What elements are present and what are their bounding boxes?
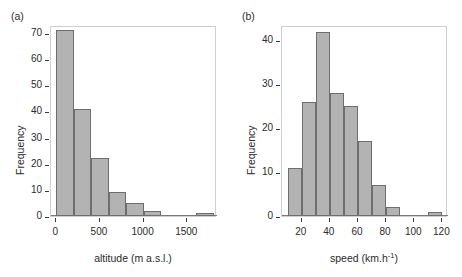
x-axis-tick [99,218,100,222]
y-axis-tick-label: 10 [4,184,42,195]
y-axis-tick-label: 70 [4,27,42,38]
y-axis-tick [45,139,49,140]
x-axis-tick-label: 1000 [123,226,163,237]
y-axis-tick [45,112,49,113]
y-axis-tick [45,86,49,87]
histogram-bar [358,141,372,216]
y-axis-tick-label: 40 [4,105,42,116]
x-axis-tick [413,218,414,222]
y-axis-tick-label: 30 [235,78,273,89]
panel-b: (b) Frequency 01020304020406080100120 sp… [231,0,462,277]
histogram-bar [91,158,108,216]
y-axis-tick-label: 20 [4,158,42,169]
panel-b-tag: (b) [242,10,255,22]
panel-b-plot-area [281,26,447,217]
y-axis-tick-label: 20 [235,122,273,133]
y-axis-tick [276,217,280,218]
y-axis-tick [45,34,49,35]
y-axis-tick [276,85,280,86]
panel-a-plot-area [50,26,216,217]
y-axis-tick [276,41,280,42]
histogram-figure: (a) Frequency 01020304050607005001000150… [0,0,462,277]
panel-a-tag: (a) [11,10,24,22]
histogram-bar [302,102,316,216]
histogram-bar [372,185,386,216]
y-axis-tick [45,60,49,61]
x-axis-tick [301,218,302,222]
y-axis-tick-label: 10 [235,166,273,177]
histogram-bar [196,213,213,216]
histogram-bar [316,32,330,216]
histogram-bar [344,106,358,216]
y-axis-tick-label: 30 [4,132,42,143]
panel-b-x-axis-title-tail: ) [394,252,398,264]
x-axis-tick [55,218,56,222]
y-axis-tick-label: 50 [4,79,42,90]
x-axis-tick [357,218,358,222]
x-axis-tick [143,218,144,222]
y-axis-tick-label: 60 [4,53,42,64]
x-axis-tick-label: 0 [35,226,75,237]
histogram-bar [144,211,161,216]
y-axis-tick [45,165,49,166]
panel-b-x-axis-title: speed (km.h-1) [275,252,453,264]
x-axis-tick [329,218,330,222]
x-axis-tick-label: 120 [421,226,461,237]
panel-a: (a) Frequency 01020304050607005001000150… [0,0,231,277]
histogram-bar [288,168,302,216]
histogram-bar [330,93,344,216]
y-axis-tick [45,217,49,218]
panel-a-x-axis-title: altitude (m a.s.l.) [50,252,216,264]
histogram-bar [428,212,442,216]
y-axis-tick-label: 0 [4,210,42,221]
x-axis-tick-label: 1500 [166,226,206,237]
y-axis-tick [45,191,49,192]
y-axis-tick [276,173,280,174]
x-axis-tick-label: 500 [79,226,119,237]
histogram-bar [126,203,143,216]
histogram-bar [386,207,400,216]
panel-b-x-axis-title-base: speed (km.h [330,252,388,264]
histogram-bar [74,109,91,216]
y-axis-tick-label: 40 [235,34,273,45]
x-axis-tick [186,218,187,222]
y-axis-tick [276,129,280,130]
histogram-bar [109,192,126,216]
x-axis-tick [441,218,442,222]
histogram-bar [56,30,73,216]
y-axis-tick-label: 0 [235,210,273,221]
x-axis-tick [385,218,386,222]
